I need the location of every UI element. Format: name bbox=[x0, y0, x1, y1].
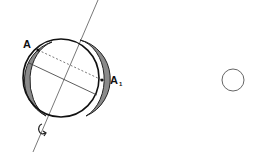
rotation-axis bbox=[33, 0, 98, 152]
right-crescent-shading bbox=[80, 40, 110, 116]
label-a1-subscript: 1 bbox=[119, 81, 123, 87]
solid-chord bbox=[29, 63, 97, 95]
label-a: A bbox=[23, 38, 31, 50]
small-circle bbox=[222, 69, 244, 91]
point-a-dot bbox=[36, 48, 39, 51]
rotation-diagram: A A 1 bbox=[0, 0, 260, 160]
left-crescent-shading bbox=[24, 42, 52, 116]
point-a1-dot bbox=[100, 78, 103, 81]
label-a1: A bbox=[110, 74, 118, 86]
